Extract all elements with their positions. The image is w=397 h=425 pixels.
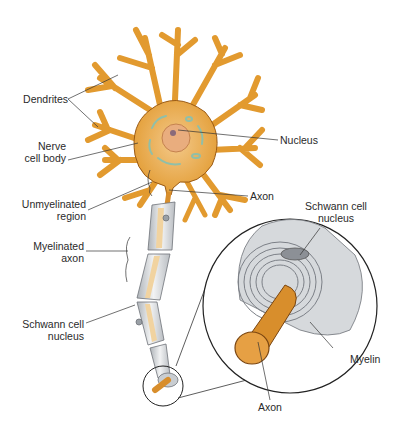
label-myelinated-line2: axon	[14, 252, 84, 264]
label-myelinated-line1: Myelinated	[14, 240, 84, 252]
label-schwann-right-line1: Schwann cell	[296, 200, 376, 212]
label-schwann-left-line2: nucleus	[14, 330, 84, 342]
nucleus	[162, 124, 190, 152]
label-unmyelinated-region: Unmyelinated region	[10, 198, 86, 222]
label-unmyelinated-line2: region	[10, 210, 86, 222]
label-schwann-cell-nucleus-right: Schwann cell nucleus	[296, 200, 376, 224]
myelin-segments	[136, 202, 175, 378]
schwann-nucleus-magnified	[281, 248, 309, 260]
label-nerve-cell-body-line2: cell body	[14, 152, 66, 164]
label-myelin: Myelin	[350, 353, 380, 365]
label-axon-bottom: Axon	[258, 401, 282, 413]
label-schwann-cell-nucleus-left: Schwann cell nucleus	[14, 318, 84, 342]
label-nerve-cell-body: Nerve cell body	[14, 140, 66, 164]
label-unmyelinated-line1: Unmyelinated	[10, 198, 86, 210]
label-schwann-right-line2: nucleus	[296, 212, 376, 224]
nucleolus	[170, 130, 176, 136]
label-myelinated-axon: Myelinated axon	[14, 240, 84, 264]
label-nucleus: Nucleus	[280, 134, 318, 146]
label-schwann-left-line1: Schwann cell	[14, 318, 84, 330]
label-nerve-cell-body-line1: Nerve	[14, 140, 66, 152]
label-axon-top: Axon	[250, 190, 274, 202]
label-dendrites: Dendrites	[20, 93, 68, 105]
